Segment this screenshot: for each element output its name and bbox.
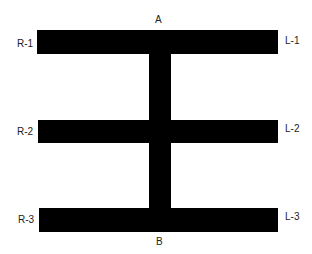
- label-bottom: B: [156, 236, 163, 248]
- stem-upper: [149, 52, 171, 122]
- bar-1: [37, 30, 278, 54]
- label-r2: R-2: [17, 126, 33, 138]
- label-r1: R-1: [17, 38, 33, 50]
- label-r3: R-3: [18, 214, 34, 226]
- label-l2: L-2: [285, 123, 299, 135]
- label-l3: L-3: [285, 211, 299, 223]
- bar-3: [39, 208, 278, 232]
- label-l1: L-1: [285, 35, 299, 47]
- stem-lower: [149, 141, 171, 210]
- bar-2: [38, 120, 278, 143]
- label-top: A: [155, 14, 162, 26]
